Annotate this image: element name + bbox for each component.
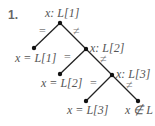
- edge-label-n1-n2: ≠: [73, 24, 80, 38]
- label-l3: x = L[3]: [66, 103, 109, 117]
- edge-n1-l1: [34, 23, 60, 48]
- node-n2: [84, 47, 88, 51]
- label-n3: x: L[3]: [115, 67, 151, 81]
- node-l1: [32, 46, 36, 50]
- label-l1: x = L[1]: [14, 51, 57, 65]
- label-n1: x: L[1]: [44, 6, 80, 20]
- node-n3: [110, 73, 114, 77]
- edge-label-n2-n3: ≠: [100, 52, 107, 66]
- edge-label-n1-l1: =: [39, 24, 46, 38]
- edge-label-n3-l3: =: [90, 76, 97, 90]
- label-l4: x ∉ L: [124, 103, 153, 117]
- label-l2: x = L[2]: [40, 76, 83, 90]
- label-n2: x: L[2]: [89, 41, 125, 55]
- edge-label-n3-l4: ≠: [126, 78, 133, 92]
- edge-label-n2-l2: =: [64, 50, 71, 64]
- node-n1: [58, 21, 62, 25]
- decision-tree: x: L[1] x = L[1] x: L[2] x = L[2] x: L[3…: [0, 0, 155, 126]
